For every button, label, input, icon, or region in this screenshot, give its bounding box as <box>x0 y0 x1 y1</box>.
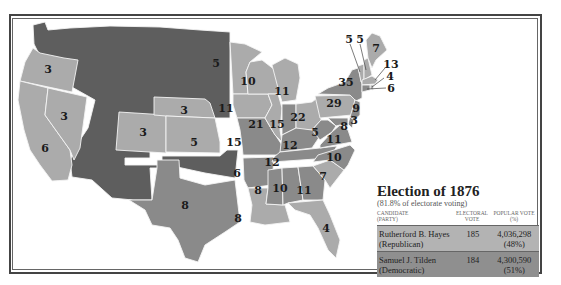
label-ohio: 22 <box>290 111 305 124</box>
label-wisconsin: 10 <box>240 75 256 88</box>
legend-subtitle: (81.8% of electorate voting) <box>377 199 539 208</box>
legend-header: CANDIDATE(PARTY) ELECTORALVOTE POPULAR V… <box>377 210 539 222</box>
header-party: (PARTY) <box>377 216 455 222</box>
label-michigan: 11 <box>274 85 289 98</box>
candidate-party: (Democratic) <box>379 265 456 275</box>
label-nevada: 3 <box>60 110 68 123</box>
header-percent: (%) <box>489 216 539 222</box>
legend-row-hayes: Rutherford B. Hayes(Republican) 185 4,03… <box>377 225 539 251</box>
electoral-vote: 185 <box>456 229 490 249</box>
label-alabama: 10 <box>272 182 288 195</box>
label-colorado: 3 <box>139 126 147 139</box>
label-iowa: 11 <box>218 102 233 115</box>
popular-percent: (48%) <box>490 239 539 249</box>
label-arkansas: 6 <box>233 167 241 180</box>
candidate-party: (Republican) <box>379 239 456 249</box>
label-california: 6 <box>41 142 49 155</box>
legend-row-tilden: Samuel J. Tilden(Democratic) 184 4,300,5… <box>377 251 539 277</box>
state-iowa <box>233 94 272 118</box>
label-kansas: 5 <box>190 136 198 149</box>
popular-percent: (51%) <box>490 265 539 275</box>
label-connecticut: 6 <box>387 82 395 95</box>
label-kentucky: 12 <box>282 139 297 152</box>
label-missouri: 15 <box>226 136 241 149</box>
label-virginia: 11 <box>326 133 341 146</box>
label-new-hampshire: 5 <box>356 33 364 46</box>
label-west-virginia: 5 <box>311 126 319 139</box>
label-vermont: 5 <box>345 33 353 46</box>
label-minnesota: 5 <box>212 57 220 70</box>
candidate-name: Samuel J. Tilden <box>379 255 456 265</box>
label-tennessee: 12 <box>264 156 279 169</box>
label-nebraska: 3 <box>180 104 188 117</box>
label-texas: 8 <box>181 199 189 212</box>
label-maine: 7 <box>372 42 380 55</box>
label-south-carolina: 7 <box>319 170 327 183</box>
label-north-carolina: 10 <box>326 151 342 164</box>
label-indiana: 15 <box>269 118 284 131</box>
label-new-york: 35 <box>338 76 353 89</box>
label-georgia: 11 <box>296 184 311 197</box>
label-florida: 4 <box>322 222 330 235</box>
candidate-name: Rutherford B. Hayes <box>379 229 456 239</box>
label-delaware: 3 <box>350 114 358 127</box>
header-vote: VOTE <box>455 216 489 222</box>
state-florida <box>288 200 340 258</box>
popular-vote: 4,300,590 <box>490 255 539 265</box>
state-connecticut <box>362 85 370 92</box>
popular-vote: 4,036,298 <box>490 229 539 239</box>
legend-title: Election of 1876 <box>377 184 539 199</box>
label-pennsylvania: 29 <box>326 97 341 110</box>
label-louisiana: 8 <box>234 212 242 225</box>
election-legend: Election of 1876 (81.8% of electorate vo… <box>377 184 539 277</box>
electoral-vote: 184 <box>456 255 490 275</box>
label-oregon: 3 <box>44 63 52 76</box>
label-illinois: 21 <box>248 118 263 131</box>
label-maryland: 8 <box>340 120 348 133</box>
label-mississippi: 8 <box>254 184 262 197</box>
